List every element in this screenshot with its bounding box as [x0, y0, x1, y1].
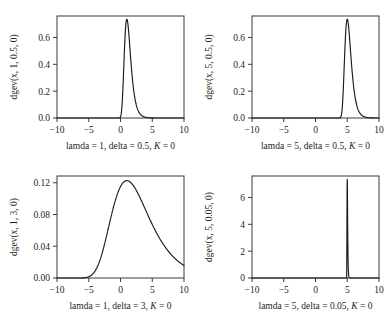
x-tick-label: −5 — [84, 125, 94, 135]
y-tick-label: 0.2 — [233, 87, 245, 97]
x-tick-label: −10 — [50, 125, 65, 135]
panel-bottom-right-content: −10−505100246dgev(x, 5, 0.05, 0)lamda = … — [204, 176, 384, 311]
panel-bottom-left-content: −10−505100.000.040.080.12dgev(x, 1, 3, 0… — [9, 176, 189, 311]
y-tick-label: 0.2 — [38, 87, 50, 97]
y-tick-label: 0.12 — [33, 178, 50, 188]
panel-caption: lamda = 1, delta = 0.5, K = 0 — [66, 141, 175, 151]
x-tick-label: 10 — [374, 125, 384, 135]
x-tick-label: −10 — [245, 285, 260, 295]
x-tick-label: 0 — [118, 285, 123, 295]
density-curve — [57, 181, 184, 278]
y-tick-label: 0.0 — [38, 113, 50, 123]
panel-top-right: −10−505100.00.20.40.6dgev(x, 5, 0.5, 0)l… — [195, 0, 389, 160]
x-tick-label: −5 — [279, 285, 289, 295]
panel-top-left-svg: −10−505100.00.20.40.6dgev(x, 1, 0.5, 0)l… — [0, 0, 194, 160]
panel-bottom-left-svg: −10−505100.000.040.080.12dgev(x, 1, 3, 0… — [0, 160, 194, 320]
x-tick-label: 10 — [179, 285, 189, 295]
x-tick-label: 5 — [345, 125, 350, 135]
panel-bottom-right-svg: −10−505100246dgev(x, 5, 0.05, 0)lamda = … — [195, 160, 389, 320]
panel-top-right-svg: −10−505100.00.20.40.6dgev(x, 5, 0.5, 0)l… — [195, 0, 389, 160]
x-tick-label: −5 — [279, 125, 289, 135]
y-tick-label: 0.08 — [33, 210, 50, 220]
x-tick-label: −10 — [50, 285, 65, 295]
panel-bottom-right: −10−505100246dgev(x, 5, 0.05, 0)lamda = … — [195, 160, 389, 320]
x-tick-label: 10 — [374, 285, 384, 295]
y-tick-label: 0.6 — [233, 33, 245, 43]
y-tick-label: 0.00 — [33, 273, 50, 283]
y-tick-label: 0.04 — [33, 242, 50, 252]
y-tick-label: 0.6 — [38, 33, 50, 43]
y-tick-label: 0.4 — [38, 60, 50, 70]
x-tick-label: 5 — [150, 125, 155, 135]
y-axis-title: dgev(x, 5, 0.5, 0) — [204, 34, 215, 99]
panel-caption: lamda = 1, delta = 3, K = 0 — [69, 301, 171, 311]
y-axis-title: dgev(x, 5, 0.05, 0) — [204, 192, 215, 262]
density-curve — [252, 179, 379, 278]
y-tick-label: 0.4 — [233, 60, 245, 70]
panel-top-left: −10−505100.00.20.40.6dgev(x, 1, 0.5, 0)l… — [0, 0, 194, 160]
panel-caption: lamda = 5, delta = 0.05, K = 0 — [259, 301, 373, 311]
density-curve — [57, 19, 184, 118]
y-axis-title: dgev(x, 1, 3, 0) — [9, 198, 20, 256]
x-tick-label: 10 — [179, 125, 189, 135]
x-tick-label: 0 — [118, 125, 123, 135]
y-tick-label: 2 — [240, 247, 245, 257]
y-tick-label: 6 — [240, 193, 245, 203]
y-axis-title: dgev(x, 1, 0.5, 0) — [9, 34, 20, 99]
panel-top-right-content: −10−505100.00.20.40.6dgev(x, 5, 0.5, 0)l… — [204, 16, 384, 151]
figure-gev-density-grid: −10−505100.00.20.40.6dgev(x, 1, 0.5, 0)l… — [0, 0, 389, 320]
y-tick-label: 4 — [240, 220, 245, 230]
x-tick-label: 0 — [313, 125, 318, 135]
panel-caption: lamda = 5, delta = 0.5, K = 0 — [261, 141, 370, 151]
y-tick-label: 0 — [240, 273, 245, 283]
panel-bottom-left: −10−505100.000.040.080.12dgev(x, 1, 3, 0… — [0, 160, 194, 320]
x-tick-label: −5 — [84, 285, 94, 295]
x-tick-label: 5 — [345, 285, 350, 295]
y-tick-label: 0.0 — [233, 113, 245, 123]
x-tick-label: 5 — [150, 285, 155, 295]
panel-top-left-content: −10−505100.00.20.40.6dgev(x, 1, 0.5, 0)l… — [9, 16, 189, 151]
x-tick-label: −10 — [245, 125, 260, 135]
x-tick-label: 0 — [313, 285, 318, 295]
density-curve — [252, 19, 379, 118]
